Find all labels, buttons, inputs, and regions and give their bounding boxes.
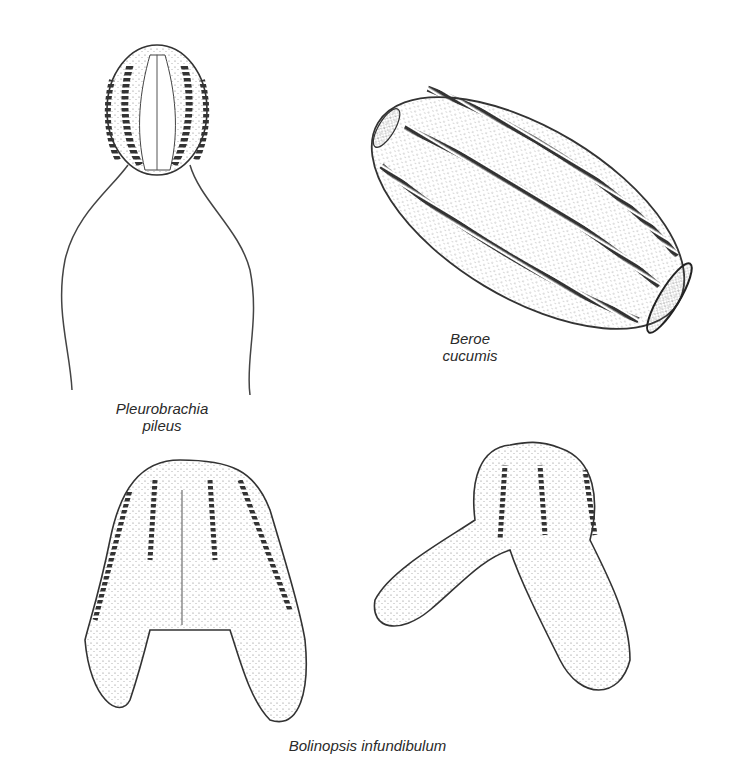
beroe-species: cucumis — [425, 347, 515, 364]
beroe-drawing — [334, 50, 722, 376]
bolinopsis-side-drawing — [374, 442, 630, 690]
beroe-label: Beroe cucumis — [425, 330, 515, 364]
bolinopsis-name: Bolinopsis infundibulum — [255, 737, 480, 754]
pleurobrachia-species: pileus — [100, 417, 224, 434]
pleurobrachia-drawing — [62, 45, 254, 395]
pleurobrachia-genus: Pleurobrachia — [100, 400, 224, 417]
beroe-genus: Beroe — [425, 330, 515, 347]
bolinopsis-label: Bolinopsis infundibulum — [255, 737, 480, 754]
bolinopsis-front-drawing — [85, 460, 306, 722]
ctenophore-drawings — [0, 0, 732, 784]
pleurobrachia-label: Pleurobrachia pileus — [100, 400, 224, 434]
illustration-plate: Pleurobrachia pileus Beroe cucumis Bolin… — [0, 0, 732, 784]
